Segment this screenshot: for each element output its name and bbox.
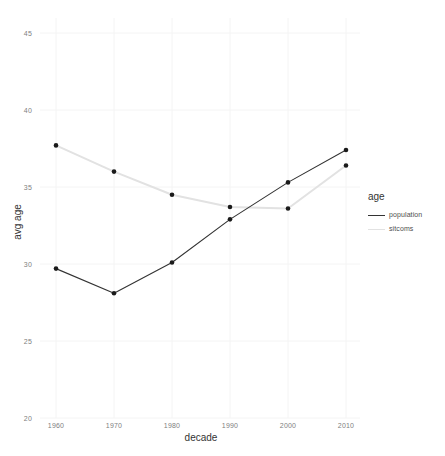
y-axis-title: avg age	[12, 192, 23, 252]
x-tick-label-2000: 2000	[280, 422, 296, 429]
chart-container: 454035302520 196019701980199020002010 de…	[0, 0, 445, 456]
y-tick-label-35: 35	[10, 184, 32, 191]
data-point-population-1980	[170, 260, 175, 265]
x-tick-label-1980: 1980	[164, 422, 180, 429]
y-tick-label-40: 40	[10, 107, 32, 114]
data-point-population-1990	[228, 217, 233, 222]
series-line-sitcoms	[56, 145, 346, 208]
x-tick-label-2010: 2010	[338, 422, 354, 429]
data-point-sitcoms-1990	[228, 205, 233, 210]
y-tick-label-20: 20	[10, 415, 32, 422]
legend-item-label: population	[389, 211, 422, 218]
x-tick-label-1970: 1970	[106, 422, 122, 429]
data-point-population-2000	[286, 180, 291, 185]
y-tick-label-45: 45	[10, 30, 32, 37]
legend-key-line-icon	[368, 209, 385, 221]
data-point-population-2010	[344, 148, 349, 153]
x-tick-label-1960: 1960	[48, 422, 64, 429]
legend: age populationsitcoms	[368, 192, 444, 236]
legend-key-line-icon	[368, 223, 385, 235]
data-point-population-1960	[54, 266, 59, 271]
grid-lines	[40, 18, 360, 418]
series-points	[54, 143, 349, 295]
data-point-sitcoms-1960	[54, 143, 59, 148]
x-tick-label-1990: 1990	[222, 422, 238, 429]
series-line-population	[56, 150, 346, 293]
series-lines	[56, 145, 346, 293]
data-point-sitcoms-2000	[286, 206, 291, 211]
legend-item-population[interactable]: population	[368, 208, 444, 221]
y-tick-label-25: 25	[10, 338, 32, 345]
legend-item-label: sitcoms	[389, 225, 413, 232]
legend-item-sitcoms[interactable]: sitcoms	[368, 222, 444, 235]
data-point-population-1970	[112, 291, 117, 296]
legend-title: age	[368, 192, 444, 202]
data-point-sitcoms-1970	[112, 169, 117, 174]
x-axis-title: decade	[185, 432, 218, 443]
legend-items: populationsitcoms	[368, 208, 444, 235]
data-point-sitcoms-2010	[344, 163, 349, 168]
y-tick-label-30: 30	[10, 261, 32, 268]
data-point-sitcoms-1980	[170, 192, 175, 197]
